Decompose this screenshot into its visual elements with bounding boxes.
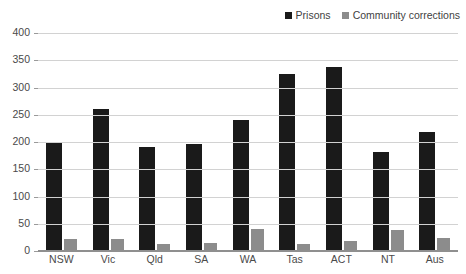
y-axis-tick [34,88,38,89]
x-axis-label-aus: Aus [411,253,458,265]
x-axis-label-nt: NT [365,253,412,265]
gridline [38,169,458,170]
y-axis-tick-label: 200 [0,135,30,147]
y-axis-tick-label: 300 [0,81,30,93]
legend-swatch-community-corrections [342,12,349,19]
y-axis-tick [34,33,38,34]
bar-prisons-vic [93,109,109,251]
y-axis-tick [34,115,38,116]
y-axis-tick [34,169,38,170]
gridline [38,251,458,252]
plot-area [38,33,458,251]
x-axis-label-wa: WA [225,253,272,265]
y-axis-tick-label: 150 [0,162,30,174]
legend-item-prisons: Prisons [285,9,331,21]
y-axis-tick [34,251,38,252]
y-axis-tick [34,142,38,143]
legend-label-prisons: Prisons [296,9,331,21]
y-axis-tick-label: 250 [0,108,30,120]
x-axis-label-sa: SA [178,253,225,265]
bar-prisons-qld [139,147,155,251]
bar-community-corrections-wa [251,229,264,251]
y-axis-tick-label: 350 [0,53,30,65]
y-axis-tick-label: 0 [0,244,30,256]
gridline [38,224,458,225]
x-axis-label-qld: Qld [131,253,178,265]
x-axis-labels: NSWVicQldSAWATasACTNTAus [38,253,458,265]
bar-chart: Offenders in Corrective Services Prisons… [0,0,466,274]
x-axis-label-act: ACT [318,253,365,265]
bar-community-corrections-nt [391,230,404,251]
bar-prisons-sa [186,144,202,251]
y-axis-tick-label: 400 [0,26,30,38]
bar-prisons-aus [419,132,435,251]
legend-swatch-prisons [285,12,292,19]
chart-legend: Prisons Community corrections [285,9,460,21]
y-axis-tick-label: 50 [0,217,30,229]
bar-prisons-wa [233,120,249,251]
x-axis-label-vic: Vic [85,253,132,265]
y-axis-tick [34,224,38,225]
bar-prisons-nt [373,152,389,251]
y-axis-tick-label: 100 [0,190,30,202]
gridline [38,115,458,116]
x-axis-label-tas: Tas [271,253,318,265]
legend-label-community-corrections: Community corrections [353,9,460,21]
x-axis-label-nsw: NSW [38,253,85,265]
gridline [38,197,458,198]
legend-item-community-corrections: Community corrections [342,9,460,21]
y-axis-tick [34,60,38,61]
gridline [38,60,458,61]
gridline [38,142,458,143]
gridline [38,88,458,89]
y-axis-tick [34,197,38,198]
gridline [38,33,458,34]
